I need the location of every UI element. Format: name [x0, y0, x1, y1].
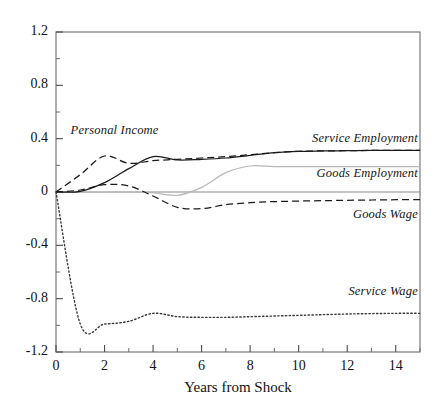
x-axis-tick-label: 10	[279, 358, 319, 374]
series-label-goods-employment: Goods Employment	[317, 166, 418, 181]
series-label-personal-income: Personal Income	[71, 123, 159, 138]
y-axis-tick-label: -0.4	[4, 236, 48, 252]
impulse-response-line-chart	[0, 0, 443, 403]
y-axis-tick-label: -1.2	[4, 343, 48, 359]
series-label-goods-wage: Goods Wage	[353, 207, 418, 222]
y-axis-tick-label: -0.8	[4, 290, 48, 306]
series-line-goods-wage	[56, 184, 420, 209]
series-label-service-wage: Service Wage	[348, 284, 418, 299]
x-axis-tick-label: 12	[327, 358, 367, 374]
y-axis-tick-label: 0	[4, 183, 48, 199]
x-axis-tick-label: 6	[182, 358, 222, 374]
x-axis-tick-label: 2	[85, 358, 125, 374]
x-axis-title: Years from Shock	[56, 379, 420, 396]
x-axis-tick-label: 8	[230, 358, 270, 374]
series-label-service-employment: Service Employment	[312, 131, 418, 146]
x-axis-tick-label: 4	[133, 358, 173, 374]
y-axis-tick-label: 1.2	[4, 23, 48, 39]
x-axis-tick-label: 0	[36, 358, 76, 374]
chart-figure: -1.2-0.8-0.400.40.81.202468101214Years f…	[0, 0, 443, 403]
y-axis-tick-label: 0.8	[4, 76, 48, 92]
x-axis-tick-label: 14	[376, 358, 416, 374]
y-axis-tick-label: 0.4	[4, 130, 48, 146]
